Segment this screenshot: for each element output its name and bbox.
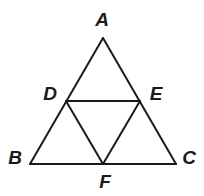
segment-df bbox=[66, 101, 103, 164]
segment-ef bbox=[103, 101, 140, 164]
vertex-label-c: C bbox=[182, 148, 196, 167]
vertex-label-a: A bbox=[95, 10, 109, 29]
vertex-label-d: D bbox=[43, 84, 57, 103]
inner-triangle-def bbox=[66, 101, 140, 164]
vertex-label-b: B bbox=[8, 148, 22, 167]
geometry-figure: A B C D E F bbox=[0, 0, 204, 196]
vertex-label-f: F bbox=[99, 172, 111, 191]
vertex-label-e: E bbox=[150, 84, 163, 103]
